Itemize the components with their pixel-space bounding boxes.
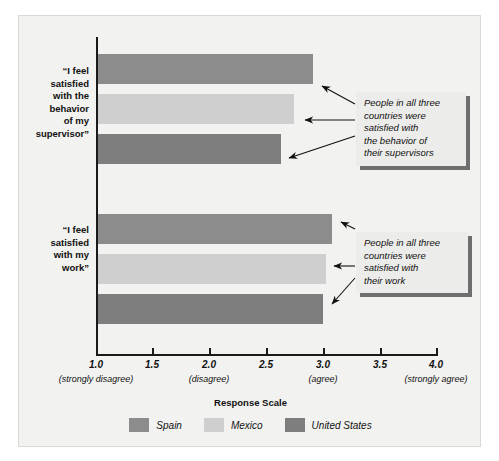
callout-supervisor-line-3: the behavior of	[364, 135, 459, 148]
legend-label-spain: Spain	[156, 420, 182, 431]
x-tick-label-4: 2.5	[246, 359, 286, 370]
category-label-work-line-1: satisfied	[17, 237, 89, 250]
x-axis-tick-6	[380, 348, 382, 356]
x-axis-tick-2	[152, 348, 154, 356]
legend-swatch-mexico	[204, 418, 224, 432]
x-axis-title: Response Scale	[19, 397, 482, 408]
callout-supervisor-line-0: People in all three	[364, 97, 459, 110]
x-tick-label-2: 1.5	[132, 359, 172, 370]
category-label-work-line-2: with my	[17, 249, 89, 262]
legend-item-spain[interactable]: Spain	[129, 418, 182, 432]
category-label-work-line-0: “I feel	[17, 224, 89, 237]
bar-supervisor-mexico	[98, 94, 294, 124]
x-axis-tick-5	[323, 348, 325, 356]
bar-supervisor-united-states	[98, 134, 281, 164]
category-label-work-line-3: work”	[17, 262, 89, 275]
callout-work-line-3: their work	[364, 275, 461, 288]
callout-supervisor-line-2: satisfied with	[364, 122, 459, 135]
category-label-supervisor-line-2: with the	[17, 90, 89, 103]
callout-supervisor-line-1: countries were	[364, 110, 459, 123]
x-tick-label-1: 1.0	[76, 359, 116, 370]
category-label-supervisor-line-1: satisfied	[17, 78, 89, 91]
category-label-work: “I feelsatisfiedwith mywork”	[17, 224, 89, 274]
x-axis-tick-1	[96, 348, 98, 356]
bar-work-mexico	[98, 254, 326, 284]
callout-supervisor-line-4: their supervisors	[364, 147, 459, 160]
callout-supervisor: People in all threecountries weresatisfi…	[356, 92, 466, 166]
category-label-supervisor-line-3: behavior	[17, 103, 89, 116]
x-tick-sublabel-agree: (agree)	[293, 374, 353, 384]
plot-area: “I feelsatisfiedwith thebehaviorof mysup…	[19, 16, 482, 448]
x-tick-sublabel-strongly-agree: (strongly agree)	[379, 374, 493, 384]
callout-work: People in all threecountries weresatisfi…	[356, 232, 468, 293]
x-tick-label-7: 4.0	[416, 359, 456, 370]
chart-legend: Spain Mexico United States	[19, 418, 482, 432]
x-axis-tick-4	[266, 348, 268, 356]
bar-supervisor-spain	[98, 54, 313, 84]
legend-label-mexico: Mexico	[231, 420, 263, 431]
bar-work-spain	[98, 214, 332, 244]
x-axis-tick-3	[209, 348, 211, 356]
x-axis-tick-7	[436, 348, 438, 356]
x-tick-sublabel-disagree: (disagree)	[169, 374, 249, 384]
category-label-supervisor: “I feelsatisfiedwith thebehaviorof mysup…	[17, 65, 89, 140]
x-tick-label-6: 3.5	[360, 359, 400, 370]
x-tick-label-5: 3.0	[303, 359, 343, 370]
bar-work-united-states	[98, 294, 323, 324]
legend-label-united-states: United States	[312, 420, 372, 431]
chart-figure: “I feelsatisfiedwith thebehaviorof mysup…	[18, 15, 481, 447]
x-tick-sublabel-strongly-disagree: (strongly disagree)	[36, 374, 156, 384]
callout-work-line-1: countries were	[364, 250, 461, 263]
legend-item-mexico[interactable]: Mexico	[204, 418, 263, 432]
x-tick-label-3: 2.0	[189, 359, 229, 370]
callout-work-line-2: satisfied with	[364, 262, 461, 275]
callout-work-line-0: People in all three	[364, 237, 461, 250]
legend-item-united-states[interactable]: United States	[285, 418, 372, 432]
legend-swatch-spain	[129, 418, 149, 432]
legend-swatch-united-states	[285, 418, 305, 432]
category-label-supervisor-line-0: “I feel	[17, 65, 89, 78]
category-label-supervisor-line-4: of my	[17, 115, 89, 128]
category-label-supervisor-line-5: supervisor”	[17, 128, 89, 141]
